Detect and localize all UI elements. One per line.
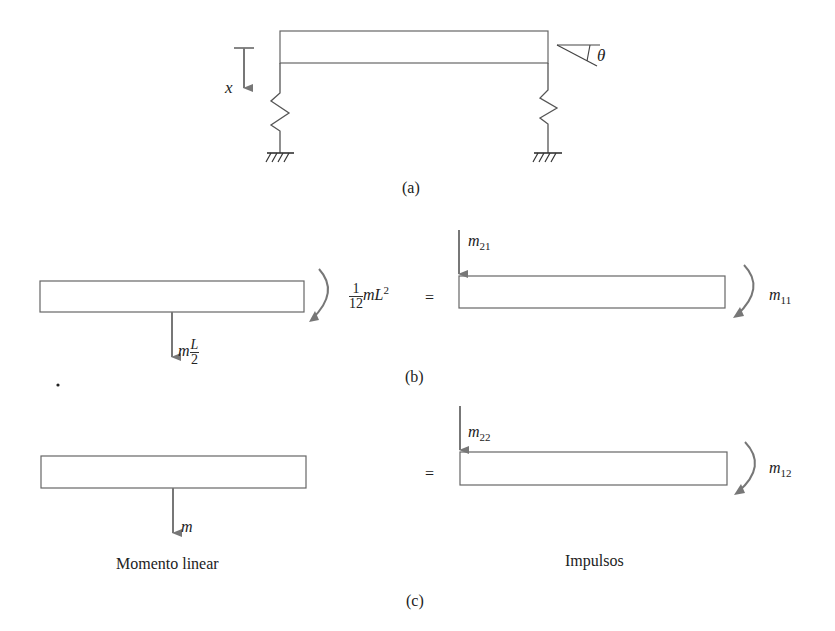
beam-b-right — [459, 276, 725, 308]
caption-b: (b) — [405, 369, 424, 385]
force-label-m: m — [181, 519, 193, 535]
impulse-label-m22: m22 — [468, 424, 491, 443]
title-momento-linear: Momento linear — [116, 556, 219, 572]
beam-c-right — [460, 452, 727, 485]
beam-b-left — [40, 281, 304, 312]
force-label-mL2: mL2 — [178, 338, 199, 367]
impulse-label-m21: m21 — [468, 233, 491, 252]
panel-a-system — [234, 31, 600, 162]
displacement-label: x — [225, 79, 233, 96]
impulse-label-m12: m12 — [769, 460, 792, 479]
impulse-label-m11: m11 — [769, 287, 791, 306]
panel-b-system — [40, 230, 753, 357]
caption-c: (c) — [406, 593, 424, 609]
rotation-label: θ — [597, 47, 605, 64]
beam-c-left — [41, 456, 306, 488]
equals-sign-c: = — [425, 466, 434, 482]
diagram-canvas — [0, 0, 835, 631]
displacement-arrow — [234, 48, 254, 88]
right-spring — [533, 63, 562, 162]
caption-a: (a) — [402, 180, 420, 196]
title-impulsos: Impulsos — [565, 553, 624, 569]
beam-a — [280, 31, 548, 63]
equals-sign-b: = — [425, 290, 434, 306]
moment-label-mL2-over-12: 112mL2 — [349, 282, 389, 311]
rotation-angle-symbol — [557, 45, 600, 66]
stray-dot — [56, 383, 59, 386]
panel-c-system — [41, 406, 755, 533]
left-spring — [266, 63, 294, 162]
